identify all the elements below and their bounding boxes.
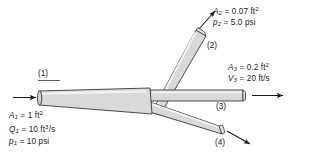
subscript-p1: 1 [14,139,18,146]
value-A2: 0.07 ft [232,7,255,16]
annotation-pressure-1: p1 = 10 psi [9,137,55,149]
per-second-Q1: /s [49,125,56,134]
equals-V3: = [239,74,244,83]
annotation-section-3: A3 = 0.2 ft2 V3 = 20 ft/s [228,60,270,86]
equals-A1: = [20,111,25,120]
subscript-A1: 1 [15,113,19,120]
port-marker-4: (4) [215,138,225,147]
equals-p2: = [224,18,229,27]
equals-A3: = [239,63,244,72]
value-p1: 10 psi [27,137,49,146]
port-marker-1: (1) [38,69,48,78]
equals-Q1: = [21,125,26,134]
annotation-area-1: A1 = 1 ft2 [9,108,55,122]
annotation-flowrate-1: Q1 = 10 ft3/s [9,122,55,136]
pipe-inlet-face [37,91,41,105]
subscript-p2: 2 [218,20,222,27]
annotation-pressure-2: p2 = 5.0 psi [213,18,259,30]
annotation-velocity-3: V3 = 20 ft/s [228,74,270,86]
subscript-A3: 3 [234,65,238,72]
subscript-Q1: 1 [15,127,19,134]
pipe-branch-2-body [152,30,206,115]
pipe-branch-3-face [243,90,246,101]
value-A3: 0.2 ft [247,63,266,72]
annotation-area-2: A2 = 0.07 ft2 [213,4,259,18]
exponent-A1: 2 [40,109,44,116]
annotation-section-1: A1 = 1 ft2 Q1 = 10 ft3/s p1 = 10 psi [9,108,55,148]
subscript-V3: 3 [234,76,238,83]
value-A1: 1 ft [28,111,40,120]
annotation-section-2: A2 = 0.07 ft2 p2 = 5.0 psi [213,4,259,30]
port-marker-2: (2) [207,41,217,50]
value-p2: 5.0 psi [231,18,256,27]
exponent-A3: 2 [266,61,270,68]
port-marker-3: (3) [216,102,226,111]
subscript-A2: 2 [219,9,223,16]
exponent-A2: 2 [255,5,259,12]
equals-A2: = [224,7,229,16]
value-Q1: 10 ft [29,125,45,134]
equals-p1: = [20,137,25,146]
value-V3: 20 ft/s [247,74,270,83]
annotation-area-3: A3 = 0.2 ft2 [228,60,270,74]
outlet-flow-arrow-4 [227,131,250,144]
